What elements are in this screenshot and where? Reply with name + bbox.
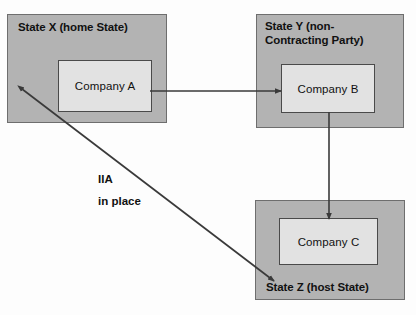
- diagram-canvas: State X (home State) Company A State Y (…: [0, 0, 416, 315]
- company-box-c: Company C: [279, 218, 378, 265]
- state-y-label: State Y (non- Contracting Party): [265, 20, 405, 47]
- company-a-label: Company A: [75, 80, 135, 92]
- company-box-b: Company B: [281, 64, 375, 113]
- company-c-label: Company C: [298, 236, 360, 248]
- state-x-label: State X (home State): [18, 21, 163, 35]
- state-z-label: State Z (host State): [266, 281, 406, 295]
- company-box-a: Company A: [58, 60, 152, 112]
- company-b-label: Company B: [298, 83, 359, 95]
- iia-in-place-label: IIA in place: [98, 168, 141, 212]
